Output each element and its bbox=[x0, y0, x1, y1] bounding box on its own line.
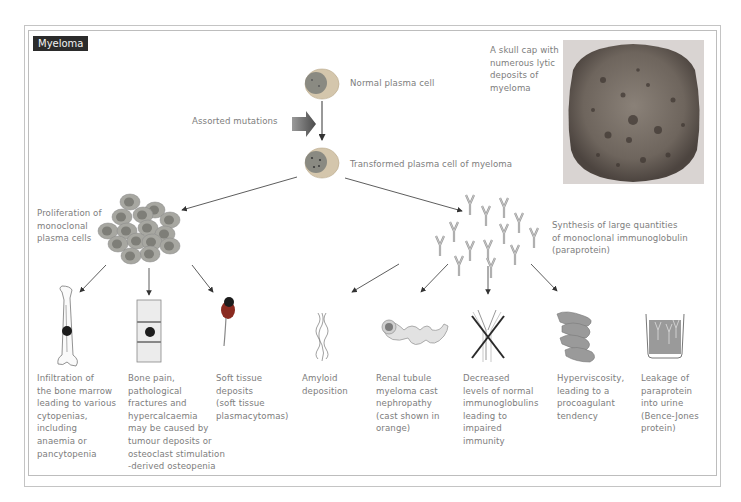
crossed-antibody-icon bbox=[472, 310, 504, 362]
amyloid-fibril-icon bbox=[316, 313, 328, 361]
renal-tubule-cast-icon bbox=[382, 320, 448, 345]
antibody-cluster-icon bbox=[436, 195, 538, 278]
soft-tissue-deposit-icon bbox=[221, 297, 235, 346]
normal-plasma-cell-icon bbox=[305, 69, 339, 99]
transformed-plasma-cell-icon bbox=[305, 148, 339, 178]
vertebra-lesion-icon bbox=[137, 300, 161, 362]
bone-marrow-infiltration-icon bbox=[58, 286, 78, 366]
plasma-cell-cluster-icon bbox=[98, 194, 180, 264]
mutation-arrow-icon bbox=[292, 111, 316, 137]
hyperviscosity-icon bbox=[557, 312, 595, 362]
urine-beaker-icon bbox=[646, 314, 684, 358]
